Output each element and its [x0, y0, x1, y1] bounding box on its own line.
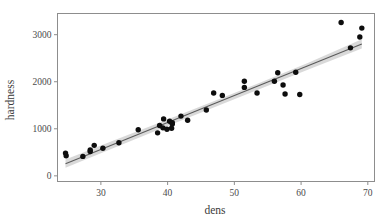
data-point	[297, 92, 302, 97]
data-point	[136, 127, 141, 132]
y-axis-ticks: 0100020003000	[33, 30, 58, 181]
data-point	[116, 140, 121, 145]
regression-fit-line	[66, 44, 362, 164]
regression-line	[66, 44, 362, 164]
data-point	[338, 20, 343, 25]
data-point	[357, 34, 362, 39]
data-point	[242, 85, 247, 90]
data-point	[272, 79, 277, 84]
data-point	[211, 90, 216, 95]
y-tick-label: 2000	[33, 77, 52, 87]
x-axis-label: dens	[204, 204, 226, 216]
data-point	[242, 79, 247, 84]
y-tick-label: 1000	[33, 124, 52, 134]
scatter-plot-figure: 3040506070 0100020003000 dens hardness	[0, 0, 391, 224]
y-axis-label: hardness	[4, 79, 16, 120]
axes-frame	[58, 14, 375, 182]
data-point	[164, 127, 169, 132]
x-tick-label: 60	[296, 188, 306, 198]
data-point	[359, 25, 364, 30]
y-tick-label: 0	[47, 171, 52, 181]
data-point	[348, 45, 353, 50]
data-point	[282, 91, 287, 96]
data-point	[63, 153, 68, 158]
x-tick-label: 30	[96, 188, 106, 198]
data-point	[275, 70, 280, 75]
x-tick-label: 40	[163, 188, 173, 198]
data-point	[293, 70, 298, 75]
y-tick-label: 3000	[33, 30, 52, 40]
x-tick-label: 70	[363, 188, 373, 198]
data-point	[80, 154, 85, 159]
data-point	[280, 82, 285, 87]
data-point	[161, 116, 166, 121]
data-point	[100, 146, 105, 151]
data-point	[178, 113, 183, 118]
data-point	[185, 118, 190, 123]
data-point	[170, 120, 175, 125]
data-points	[63, 20, 365, 159]
plot-canvas: 3040506070 0100020003000 dens hardness	[0, 0, 391, 224]
plot-frame	[58, 14, 375, 182]
data-point	[88, 147, 93, 152]
x-axis-ticks: 3040506070	[96, 182, 373, 198]
data-point	[220, 93, 225, 98]
data-point	[204, 107, 209, 112]
data-point	[92, 143, 97, 148]
x-tick-label: 50	[230, 188, 240, 198]
data-point	[155, 130, 160, 135]
data-point	[254, 90, 259, 95]
